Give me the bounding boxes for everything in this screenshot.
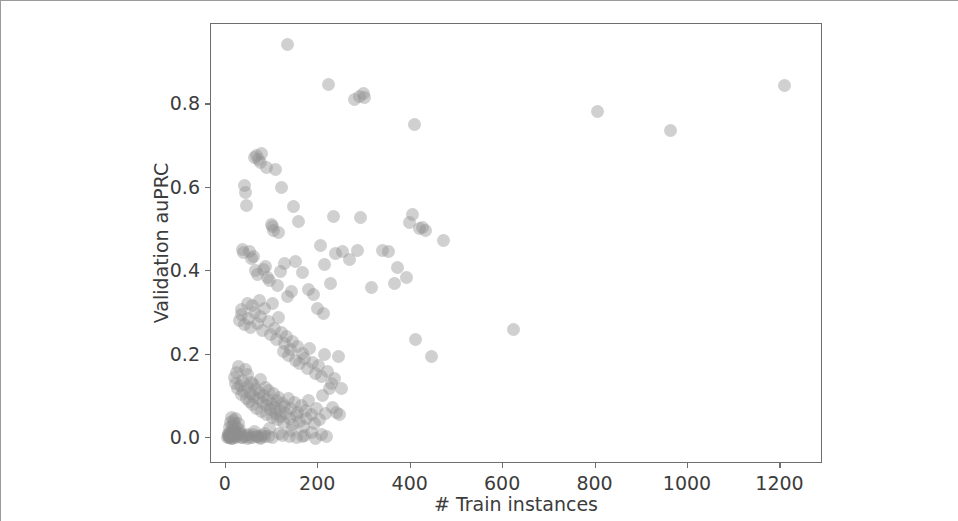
x-tick-mark [502, 463, 503, 468]
scatter-point [314, 239, 327, 252]
scatter-point [320, 430, 333, 443]
scatter-point [258, 430, 271, 443]
scatter-point [269, 163, 282, 176]
scatter-point [317, 307, 330, 320]
scatter-point [247, 250, 260, 263]
scatter-point [287, 200, 300, 213]
y-tick-label: 0.2 [158, 344, 200, 363]
x-tick-label: 400 [392, 474, 428, 493]
scatter-point [272, 311, 285, 324]
scatter-point [778, 79, 791, 92]
scatter-point [335, 382, 348, 395]
y-tick-mark [205, 187, 210, 188]
y-tick-mark [205, 103, 210, 104]
scatter-point [419, 224, 432, 237]
y-tick-label: 0.0 [158, 428, 200, 447]
x-tick-mark [687, 463, 688, 468]
scatter-point [382, 245, 395, 258]
scatter-point [437, 234, 450, 247]
x-tick-mark [779, 463, 780, 468]
scatter-point [323, 382, 336, 395]
scatter-point [296, 266, 309, 279]
scatter-point [307, 288, 320, 301]
scatter-point [425, 350, 438, 363]
scatter-point [400, 271, 413, 284]
scatter-point [318, 258, 331, 271]
scatter-point [292, 215, 305, 228]
plot-axes-frame [210, 23, 822, 463]
y-tick-mark [205, 270, 210, 271]
scatter-point [333, 408, 346, 421]
scatter-point [266, 297, 279, 310]
scatter-point [664, 124, 677, 137]
x-tick-mark [595, 463, 596, 468]
x-axis-label: # Train instances [434, 493, 598, 515]
scatter-point [324, 277, 337, 290]
scatter-point [303, 342, 316, 355]
scatter-point [409, 333, 422, 346]
scatter-point [354, 211, 367, 224]
y-tick-label: 0.8 [158, 94, 200, 113]
x-tick-label: 600 [484, 474, 520, 493]
scatter-point [406, 208, 419, 221]
y-axis-label: Validation auPRC [150, 163, 172, 324]
scatter-point [327, 210, 340, 223]
scatter-point [272, 226, 285, 239]
y-tick-mark [205, 354, 210, 355]
scatter-point [285, 285, 298, 298]
x-tick-label: 1200 [755, 474, 803, 493]
y-tick-mark [205, 437, 210, 438]
x-tick-mark [225, 463, 226, 468]
x-tick-mark [317, 463, 318, 468]
scatter-point [255, 147, 268, 160]
scatter-point [271, 279, 284, 292]
scatter-point [358, 91, 371, 104]
scatter-point [408, 118, 421, 131]
scatter-point [591, 105, 604, 118]
scatter-point [239, 186, 252, 199]
scatter-point [507, 323, 520, 336]
x-tick-mark [410, 463, 411, 468]
x-tick-label: 0 [219, 474, 231, 493]
scatter-point [365, 281, 378, 294]
x-tick-label: 200 [299, 474, 335, 493]
scatter-plot-figure: 020040060080010001200 0.00.20.40.60.8 # … [0, 0, 958, 521]
scatter-point [275, 181, 288, 194]
scatter-point [240, 199, 253, 212]
scatter-point [318, 348, 331, 361]
scatter-point [322, 78, 335, 91]
scatter-point [351, 244, 364, 257]
scatter-point [332, 350, 345, 363]
scatter-point [281, 38, 294, 51]
x-tick-label: 800 [576, 474, 612, 493]
x-tick-label: 1000 [663, 474, 711, 493]
scatter-points-layer [211, 24, 821, 462]
